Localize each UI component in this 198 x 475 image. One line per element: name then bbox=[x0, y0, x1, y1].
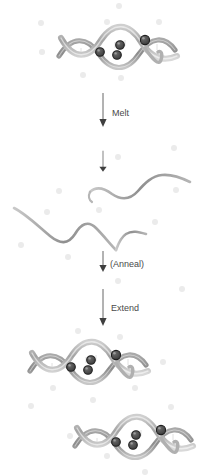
single-strand-lower bbox=[14, 208, 116, 250]
step-label-melt: Melt bbox=[112, 108, 129, 118]
stage-duplex-product-1 bbox=[30, 342, 148, 383]
stage-duplex-top bbox=[59, 27, 177, 68]
stage-duplex-product-2 bbox=[75, 417, 193, 458]
single-strand-upper bbox=[90, 175, 190, 198]
stage-melted-strands bbox=[14, 175, 190, 250]
step-label-anneal: (Anneal) bbox=[110, 259, 144, 269]
arrow-melt bbox=[99, 93, 106, 127]
arrow-extend bbox=[99, 289, 106, 326]
step-label-extend: Extend bbox=[111, 303, 139, 313]
arrow-anneal bbox=[99, 151, 106, 272]
